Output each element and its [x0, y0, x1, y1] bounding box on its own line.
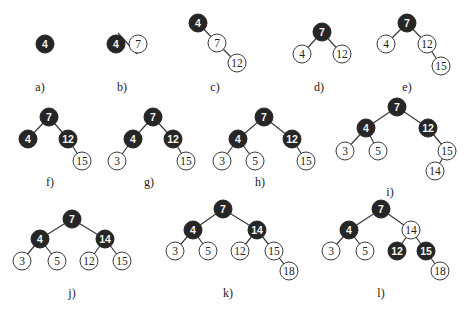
node-key-label: 4 — [42, 38, 48, 50]
black-node-7: 7 — [313, 23, 331, 41]
tree-panel-g: 7412315g) — [108, 108, 195, 189]
black-node-7: 7 — [372, 200, 390, 218]
node-key-label: 3 — [172, 245, 178, 257]
red-node-12: 12 — [333, 45, 351, 63]
node-key-label: 5 — [205, 245, 211, 257]
node-key-label: 4 — [25, 133, 31, 145]
black-node-12: 12 — [283, 130, 301, 148]
node-key-label: 4 — [113, 38, 119, 50]
node-key-label: 7 — [261, 111, 267, 123]
black-node-4: 4 — [36, 35, 54, 53]
red-node-15: 15 — [438, 142, 456, 160]
black-node-7: 7 — [144, 108, 162, 126]
node-key-label: 12 — [391, 245, 403, 257]
tree-panel-k: 741435121518k) — [166, 200, 298, 300]
node-key-label: 15 — [268, 245, 280, 257]
red-node-12: 12 — [80, 252, 98, 270]
panel-caption: h) — [255, 175, 265, 189]
node-key-label: 14 — [405, 224, 417, 236]
node-key-label: 4 — [195, 17, 201, 29]
black-node-7: 7 — [388, 98, 406, 116]
node-key-label: 7 — [135, 38, 141, 50]
red-black-tree-figure: 4a)47b)4712c)7412d)741215e)741215f)74123… — [0, 0, 466, 311]
black-node-4: 4 — [124, 130, 142, 148]
panel-caption: a) — [35, 80, 44, 94]
black-node-4: 4 — [189, 14, 207, 32]
tree-panel-a: 4a) — [35, 35, 54, 94]
node-key-label: 12 — [336, 48, 348, 60]
red-node-4: 4 — [377, 35, 395, 53]
node-key-label: 12 — [234, 245, 246, 257]
node-key-label: 14 — [99, 233, 111, 245]
node-key-label: 7 — [378, 203, 384, 215]
red-node-14: 14 — [426, 162, 444, 180]
node-key-label: 4 — [235, 133, 241, 145]
node-key-label: 7 — [214, 37, 220, 49]
tree-panel-l: 741435121518l) — [322, 200, 449, 300]
red-node-5: 5 — [199, 242, 217, 260]
node-key-label: 4 — [299, 48, 305, 60]
panel-caption: e) — [402, 80, 411, 94]
node-key-label: 12 — [231, 57, 243, 69]
tree-panel-e: 741215e) — [377, 14, 450, 94]
panel-caption: b) — [117, 80, 127, 94]
node-key-label: 5 — [375, 145, 381, 157]
node-key-label: 3 — [114, 155, 120, 167]
node-key-label: 4 — [190, 224, 196, 236]
tree-panel-h: 74123515h) — [213, 108, 315, 189]
black-node-4: 4 — [340, 221, 358, 239]
panel-caption: j) — [67, 286, 75, 300]
red-node-15: 15 — [265, 242, 283, 260]
black-node-12: 12 — [164, 130, 182, 148]
red-node-15: 15 — [432, 57, 450, 75]
node-key-label: 18 — [283, 265, 295, 277]
red-node-15: 15 — [113, 252, 131, 270]
panel-caption: l) — [377, 286, 384, 300]
node-key-label: 7 — [220, 203, 226, 215]
red-node-7: 7 — [208, 34, 226, 52]
tree-panel-j: 7414351215j) — [13, 210, 131, 300]
red-node-4: 4 — [293, 45, 311, 63]
black-node-4: 4 — [31, 230, 49, 248]
node-key-label: 3 — [342, 145, 348, 157]
node-key-label: 3 — [219, 155, 225, 167]
node-key-label: 7 — [394, 101, 400, 113]
black-node-14: 14 — [248, 221, 266, 239]
red-node-12: 12 — [228, 54, 246, 72]
black-node-12: 12 — [388, 242, 406, 260]
black-node-7: 7 — [40, 108, 58, 126]
black-node-7: 7 — [214, 200, 232, 218]
node-key-label: 12 — [83, 255, 95, 267]
node-key-label: 7 — [319, 26, 325, 38]
red-node-5: 5 — [369, 142, 387, 160]
red-node-15: 15 — [73, 152, 91, 170]
red-node-5: 5 — [356, 242, 374, 260]
node-key-label: 4 — [346, 224, 352, 236]
node-key-label: 14 — [251, 224, 263, 236]
red-node-3: 3 — [166, 242, 184, 260]
black-node-4: 4 — [107, 35, 125, 53]
node-key-label: 12 — [422, 122, 434, 134]
node-key-label: 15 — [441, 145, 453, 157]
panel-caption: i) — [386, 185, 393, 199]
panel-caption: f) — [46, 175, 54, 189]
panel-caption: d) — [314, 80, 324, 94]
node-key-label: 12 — [421, 38, 433, 50]
red-node-12: 12 — [231, 242, 249, 260]
node-key-label: 12 — [286, 133, 298, 145]
black-node-12: 12 — [419, 119, 437, 137]
node-key-label: 15 — [300, 155, 312, 167]
red-node-15: 15 — [297, 152, 315, 170]
red-node-14: 14 — [402, 221, 420, 239]
red-node-5: 5 — [48, 252, 66, 270]
tree-panel-d: 7412d) — [293, 23, 351, 94]
red-node-3: 3 — [322, 242, 340, 260]
node-key-label: 18 — [434, 265, 446, 277]
node-key-label: 4 — [130, 133, 136, 145]
red-node-3: 3 — [108, 152, 126, 170]
red-node-3: 3 — [213, 152, 231, 170]
node-key-label: 12 — [62, 133, 74, 145]
red-node-3: 3 — [13, 252, 31, 270]
node-key-label: 14 — [429, 165, 441, 177]
node-key-label: 7 — [69, 213, 75, 225]
